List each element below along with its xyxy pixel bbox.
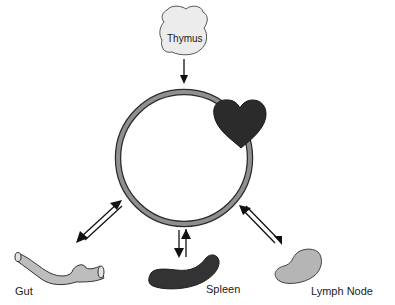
gut-label: Gut — [15, 285, 33, 297]
gut-arrow-icon — [76, 200, 122, 243]
spleen-arrow-icon — [174, 229, 191, 258]
lymph-node-label: Lymph Node — [311, 285, 373, 297]
lymph-node-arrow-icon — [239, 205, 282, 245]
lymph-node-shape — [275, 249, 321, 283]
thymus-shape — [160, 6, 207, 55]
heart-icon — [214, 100, 266, 148]
thymus-arrow-icon — [180, 59, 188, 84]
spleen-label: Spleen — [206, 283, 240, 295]
diagram-canvas: Thymus Gut Spleen Lymph Node — [0, 0, 395, 305]
diagram-graphics — [0, 0, 395, 305]
thymus-label: Thymus — [167, 33, 203, 44]
gut-shape — [15, 253, 104, 285]
